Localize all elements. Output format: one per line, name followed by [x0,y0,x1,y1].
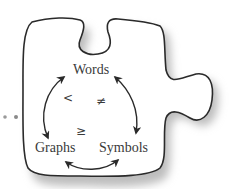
dot-1 [3,115,7,119]
node-words: Words [73,63,109,77]
puzzle-diagram [0,0,232,189]
dot-2 [14,115,18,119]
relation-greater-equal: ≥ [76,125,86,137]
diagram-canvas: Words Graphs Symbols < ≠ ≥ [0,0,232,189]
relation-not-equal: ≠ [96,95,106,107]
relation-less-than: < [63,92,73,104]
node-symbols: Symbols [99,141,148,155]
node-graphs: Graphs [35,141,75,155]
